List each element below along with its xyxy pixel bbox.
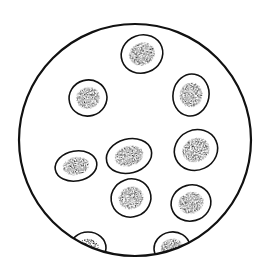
cell — [70, 232, 106, 264]
cell-membrane — [70, 232, 106, 264]
cell — [116, 29, 168, 79]
cells-group — [53, 29, 225, 267]
cell — [168, 123, 225, 178]
cell — [167, 180, 215, 225]
cell — [106, 173, 157, 222]
cell — [102, 134, 155, 179]
cell — [65, 76, 111, 121]
cell — [151, 229, 192, 267]
cell — [53, 148, 100, 185]
cell — [170, 71, 213, 119]
microscope-illustration — [0, 0, 271, 275]
